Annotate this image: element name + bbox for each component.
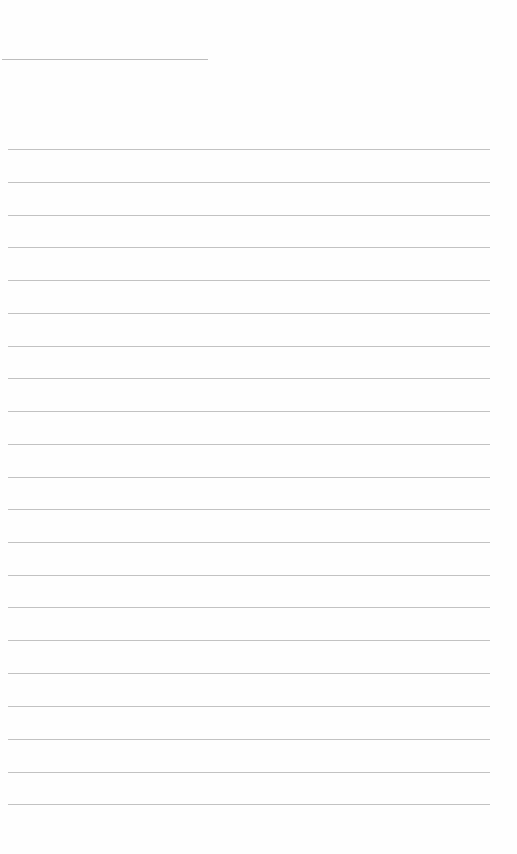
ruled-line	[8, 673, 490, 674]
ruled-line	[8, 706, 490, 707]
ruled-line	[8, 804, 490, 805]
ruled-line	[8, 247, 490, 248]
ruled-line	[8, 607, 490, 608]
ruled-line	[8, 378, 490, 379]
ruled-line	[8, 444, 490, 445]
ruled-line	[8, 313, 490, 314]
ruled-lines-area	[8, 0, 490, 854]
lined-page	[0, 0, 517, 854]
ruled-line	[8, 509, 490, 510]
ruled-line	[8, 477, 490, 478]
ruled-line	[8, 575, 490, 576]
ruled-line	[8, 215, 490, 216]
ruled-line	[8, 772, 490, 773]
ruled-line	[8, 542, 490, 543]
ruled-line	[8, 411, 490, 412]
ruled-line	[8, 149, 490, 150]
ruled-line	[8, 182, 490, 183]
ruled-line	[8, 280, 490, 281]
ruled-line	[8, 739, 490, 740]
ruled-line	[8, 346, 490, 347]
ruled-line	[8, 640, 490, 641]
